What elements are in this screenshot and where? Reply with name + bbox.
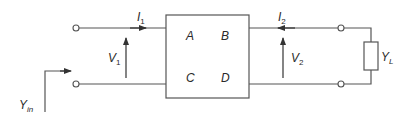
load-bottom-wire	[344, 70, 371, 84]
yl-label: YL	[381, 50, 393, 66]
two-port-diagram: I1 I2 V1 V2 YL Yin A B C D	[0, 0, 407, 119]
param-b-label: B	[221, 29, 229, 43]
load-admittance-icon	[364, 42, 378, 70]
param-c-label: C	[186, 71, 195, 85]
yin-label: Yin	[19, 98, 34, 114]
v1-label: V1	[108, 51, 121, 67]
input-terminal-top	[73, 25, 79, 31]
load-top-wire	[344, 28, 371, 42]
two-port-box	[166, 15, 249, 98]
output-terminal-bottom	[338, 81, 344, 87]
output-terminal-top	[338, 25, 344, 31]
i1-label: I1	[137, 10, 145, 26]
param-a-label: A	[185, 29, 194, 43]
param-d-label: D	[221, 71, 230, 85]
i2-label: I2	[278, 10, 286, 26]
v2-label: V2	[291, 51, 304, 67]
yin-indicator-line	[45, 71, 64, 112]
input-terminal-bottom	[73, 81, 79, 87]
